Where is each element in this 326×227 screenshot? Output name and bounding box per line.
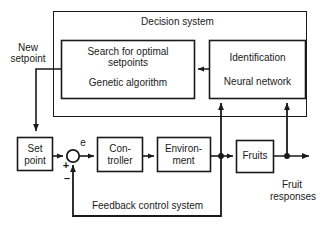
search-block-label-line1: Search for optimal: [62, 46, 194, 57]
arrow-new-setpoint: [36, 69, 61, 131]
controller-block-label-line1: Con-: [98, 143, 142, 154]
identification-block-box: [210, 41, 306, 99]
environment-block-label-line1: Environ-: [157, 143, 210, 154]
plus-sign-label: +: [61, 159, 71, 171]
setpoint-block-label-line1: Set: [18, 143, 52, 154]
error-signal-label: e: [78, 137, 88, 148]
search-block-label-line2: setpoints: [62, 57, 194, 68]
diagram-canvas: Decision system Search for optimal setpo…: [0, 0, 326, 227]
search-block-label-line3: Genetic algorithm: [62, 77, 194, 88]
controller-block-label-line2: troller: [98, 155, 142, 166]
identification-block-label-line2: Neural network: [210, 76, 305, 87]
new-setpoint-label-line2: setpoint: [2, 53, 54, 64]
fruit-responses-label-line2: responses: [264, 191, 322, 202]
minus-sign-label: –: [62, 172, 72, 184]
new-setpoint-label-line1: New: [5, 42, 51, 53]
fruits-block-label: Fruits: [237, 150, 273, 161]
fruit-responses-label-line1: Fruit: [268, 179, 316, 190]
environment-block-label-line2: ment: [157, 155, 210, 166]
decision-system-label: Decision system: [110, 16, 245, 27]
setpoint-block-label-line2: point: [18, 155, 52, 166]
feedback-control-system-label: Feedback control system: [80, 200, 215, 211]
identification-block-label-line1: Identification: [210, 52, 305, 63]
